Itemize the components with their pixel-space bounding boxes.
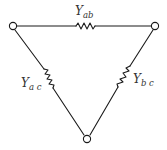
resistor-ab-icon bbox=[76, 23, 95, 29]
node-b-terminal-icon bbox=[151, 22, 158, 29]
branch-ab bbox=[17, 23, 151, 29]
delta-network-diagram: Yab Ya c Yb c bbox=[0, 0, 167, 150]
wire-bc-lower bbox=[90, 87, 118, 135]
label-yac: Ya c bbox=[21, 76, 42, 92]
resistor-ac-icon bbox=[44, 69, 54, 88]
node-c-terminal-icon bbox=[83, 135, 90, 142]
wire-ac-upper bbox=[15, 30, 44, 69]
wire-ac-lower bbox=[53, 88, 84, 135]
label-yab: Yab bbox=[75, 4, 93, 20]
label-ybc: Yb c bbox=[133, 72, 154, 88]
wire-bc-upper bbox=[130, 30, 153, 66]
node-a-terminal-icon bbox=[9, 22, 16, 29]
resistor-bc-icon bbox=[117, 66, 130, 87]
